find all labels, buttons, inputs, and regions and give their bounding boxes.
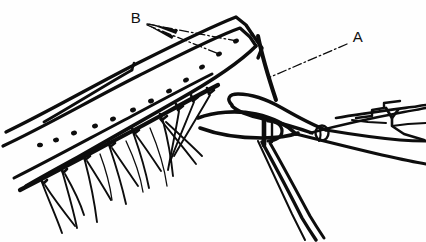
label-a: A: [353, 28, 363, 45]
label-b: B: [131, 9, 141, 26]
figure-canvas: B A: [0, 0, 426, 242]
surgical-illustration: B A: [0, 0, 426, 242]
